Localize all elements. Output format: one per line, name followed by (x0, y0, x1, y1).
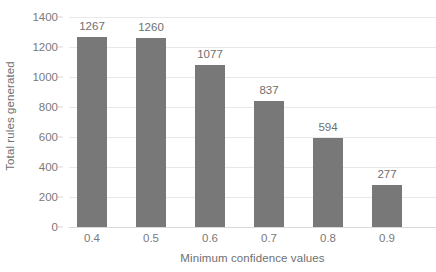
y-axis-tick-label: 200 (39, 191, 58, 203)
bar-group: 1260 (121, 0, 181, 228)
plot-area: 126712601077837594277 (69, 0, 436, 228)
y-axis-title: Total rules generated (0, 0, 20, 232)
x-axis-tick-label: 0.8 (320, 232, 336, 244)
x-axis-title-label: Minimum confidence values (180, 252, 324, 264)
bar-chart-figure: Total rules generated 020040060080010001… (0, 0, 436, 272)
bar (313, 138, 343, 227)
bar (136, 38, 166, 227)
y-axis-tick-label: 1000 (32, 71, 58, 83)
y-axis-tick-label: 1200 (32, 41, 58, 53)
bars-layer: 126712601077837594277 (69, 0, 436, 228)
bar-value-label: 277 (377, 168, 396, 180)
y-axis-tick-labels: 0200400600800100012001400 (18, 0, 64, 240)
bar-value-label: 837 (259, 84, 278, 96)
bar-group: 1267 (62, 0, 122, 228)
bar-group: 1077 (180, 0, 240, 228)
y-axis-tick-label: 800 (39, 101, 58, 113)
bar-value-label: 594 (318, 121, 337, 133)
x-axis-tick-label: 0.5 (143, 232, 159, 244)
bar-group: 837 (239, 0, 299, 228)
y-axis-tick-label: 400 (39, 161, 58, 173)
bar-value-label: 1267 (79, 20, 105, 32)
bar (372, 185, 402, 227)
bar (77, 37, 107, 227)
bar-group: 277 (357, 0, 417, 228)
x-axis-tick-label: 0.6 (202, 232, 218, 244)
x-axis-title: Minimum confidence values (69, 252, 436, 264)
bar-value-label: 1260 (138, 21, 164, 33)
bar-group: 594 (298, 0, 358, 228)
y-axis-tick-label: 600 (39, 131, 58, 143)
bar (195, 65, 225, 227)
bar (254, 101, 284, 227)
y-axis-tick-label: 1400 (32, 11, 58, 23)
y-axis-title-label: Total rules generated (4, 61, 16, 171)
x-axis-tick-label: 0.7 (261, 232, 277, 244)
x-axis-tick-label: 0.4 (84, 232, 100, 244)
bar-value-label: 1077 (197, 48, 223, 60)
x-axis-tick-label: 0.9 (379, 232, 395, 244)
x-axis-tick-labels: 0.40.50.60.70.80.9 (69, 232, 436, 252)
